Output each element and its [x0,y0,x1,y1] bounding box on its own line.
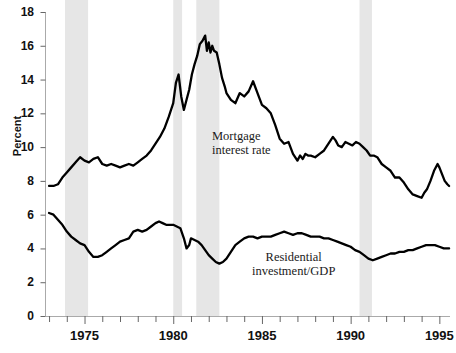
chart-plot-area [0,0,456,353]
x-tick-marks [50,316,440,324]
y-tick-label: 2 [8,275,34,289]
y-tick-label: 0 [8,309,34,323]
y-tick-label: 6 [8,208,34,222]
recession-1973-1975-band [65,0,88,316]
y-tick-label: 16 [8,39,34,53]
x-tick-label: 1995 [409,328,456,343]
y-tick-label: 10 [8,140,34,154]
x-tick-label: 1990 [321,328,381,343]
y-tick-label: 14 [8,73,34,87]
y-tick-label: 8 [8,174,34,188]
y-tick-marks [41,13,46,317]
y-tick-label: 4 [8,241,34,255]
chart-figure: Percent 024681012141618 1975198019851990… [0,0,456,353]
series-line-residential-investment-gdp [49,213,449,264]
x-tick-label: 1985 [232,328,292,343]
recession-1980-band [173,0,182,316]
y-tick-label: 12 [8,106,34,120]
x-tick-label: 1980 [143,328,203,343]
series-line-mortgage-interest-rate [49,36,449,198]
x-tick-label: 1975 [55,328,115,343]
series-label-mortgage-interest-rate: Mortgage interest rate [212,129,271,157]
recession-1990-1991-band [360,0,372,316]
y-tick-label: 18 [8,5,34,19]
series-label-residential-investment-gdp: Residential investment/GDP [252,250,335,278]
